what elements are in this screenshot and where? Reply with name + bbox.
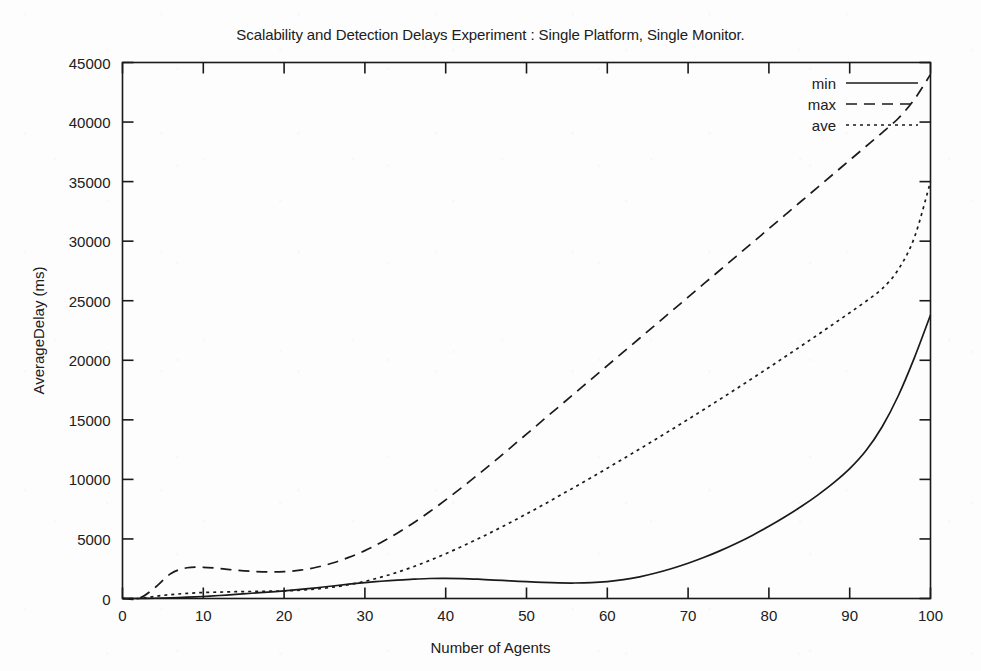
series-line-ave: [123, 182, 931, 599]
legend-label-min: min: [812, 75, 836, 92]
chart-figure: Scalability and Detection Delays Experim…: [0, 0, 981, 671]
axis-frame: [123, 63, 931, 599]
y-tick-label: 0: [102, 590, 110, 607]
legend-label-max: max: [808, 96, 836, 113]
y-tick-label: 40000: [69, 114, 111, 131]
x-tick-label: 10: [195, 607, 212, 624]
y-tick-label: 10000: [69, 471, 111, 488]
legend-sample-lines: [846, 83, 918, 125]
x-tick-label: 60: [599, 607, 616, 624]
x-tick-label: 80: [761, 607, 778, 624]
y-tick-label: 35000: [69, 173, 111, 190]
series-line-min: [123, 315, 931, 598]
y-tick-label: 25000: [69, 292, 111, 309]
x-tick-label: 0: [118, 607, 126, 624]
x-tick-label: 50: [518, 607, 535, 624]
x-tick-label: 70: [680, 607, 697, 624]
y-tick-label: 30000: [69, 233, 111, 250]
data-series: [123, 74, 931, 599]
axis-ticks: [123, 63, 931, 599]
x-tick-label: 90: [841, 607, 858, 624]
x-tick-label: 30: [357, 607, 374, 624]
y-tick-label: 20000: [69, 352, 111, 369]
y-tick-label: 45000: [69, 54, 111, 71]
legend-label-ave: ave: [812, 117, 836, 134]
y-tick-label: 15000: [69, 411, 111, 428]
x-tick-label: 40: [437, 607, 454, 624]
x-tick-label: 20: [276, 607, 293, 624]
x-tick-label: 100: [918, 607, 943, 624]
y-tick-label: 5000: [77, 530, 110, 547]
series-line-max: [123, 74, 931, 599]
